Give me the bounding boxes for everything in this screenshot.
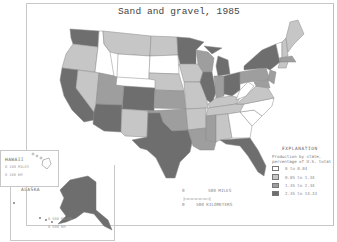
state-arizona — [93, 104, 122, 132]
legend-subtitle: Production by state, percentage of U.S. … — [272, 154, 332, 164]
state-maine — [286, 20, 304, 52]
state-montana — [103, 31, 151, 56]
alaska-scale-km: 0 500 KM — [48, 225, 65, 229]
legend-swatch-light-gray — [272, 174, 279, 180]
legend-item: 1.35 to 2.34 — [272, 182, 334, 190]
legend-item-label: 1.35 to 2.34 — [285, 183, 315, 188]
legend-item: 2.35 to 14.33 — [272, 190, 334, 198]
legend-item: 0.85 to 1.34 — [272, 173, 334, 181]
scale-km-label: 500 KILOMETERS — [196, 202, 232, 207]
state-mississippi — [206, 115, 216, 142]
state-kansas — [154, 90, 186, 109]
state-south-dakota — [149, 55, 179, 74]
state-oregon — [62, 44, 98, 72]
alaska-label: ALASKA — [21, 187, 40, 192]
legend-item-label: 0 to 0.84 — [285, 166, 307, 171]
state-ohio — [224, 72, 240, 96]
legend-swatch-dark-gray — [272, 191, 279, 197]
legend-item-label: 0.85 to 1.34 — [285, 175, 315, 180]
legend-swatch-white — [272, 166, 279, 172]
state-new-jersey — [268, 70, 276, 84]
scale-bar-ruler — [184, 197, 210, 201]
state-indiana — [214, 76, 224, 98]
state-colorado — [122, 86, 155, 111]
legend-swatch-medium-gray — [272, 183, 279, 189]
scale-km-zero: 0 — [182, 202, 185, 207]
hawaii-islands-icon — [1, 151, 58, 186]
state-new-mexico — [121, 109, 148, 137]
legend: EXPLANATION Production by state, percent… — [272, 146, 334, 197]
state-connecticut — [278, 62, 288, 68]
legend-item: 0 to 0.84 — [272, 165, 334, 173]
scale-miles-zero: 0 — [182, 188, 185, 193]
state-north-dakota — [150, 36, 178, 56]
state-florida — [220, 138, 266, 176]
state-new-york — [244, 44, 280, 70]
alaska-scale-miles: 0 500 MILES — [48, 217, 72, 221]
hawaii-inset: HAWAII 0 100 MILES 0 100 KM — [0, 150, 59, 187]
legend-heading: EXPLANATION — [282, 146, 334, 151]
map-title: Sand and gravel, 1985 — [118, 6, 240, 17]
legend-item-label: 2.35 to 14.33 — [285, 191, 317, 196]
state-utah — [96, 73, 124, 105]
state-wyoming — [117, 54, 150, 79]
scale-miles-label: 500 MILES — [208, 188, 231, 193]
state-arkansas — [186, 108, 206, 130]
